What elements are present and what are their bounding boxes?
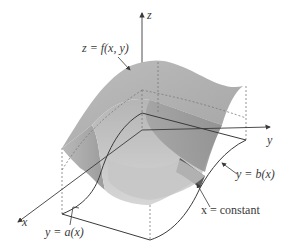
surface-label: z = f(x, y) <box>82 42 129 54</box>
upper-boundary-label: y = b(x) <box>236 168 275 180</box>
z-axis-label: z <box>147 9 152 21</box>
slice-label: x = constant <box>201 204 260 216</box>
x-axis-label: x <box>22 216 27 228</box>
y-axis-label: y <box>267 134 272 146</box>
leader-surface <box>118 57 130 70</box>
lower-boundary-label: y = a(x) <box>45 226 84 238</box>
leader-b-of-x <box>222 163 237 174</box>
